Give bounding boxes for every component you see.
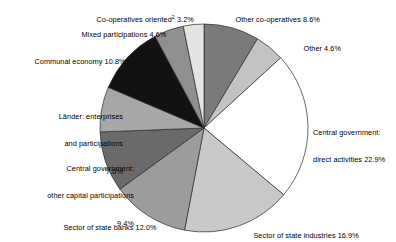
- pie-label-central-gov-direct-line1: Central government:: [313, 128, 385, 137]
- pie-label-central-gov-direct-line2: direct activities 22.9%: [313, 155, 385, 164]
- pie-label-central-gov-other-capital-line2: other capital participations: [5, 191, 134, 200]
- pie-label-other-text: Other 4.6%: [303, 44, 341, 53]
- pie-chart-figure: Co-operatives oriented2 3.2% Mixed parti…: [0, 0, 396, 242]
- pie-label-co-operatives-oriented-value: 3.2%: [175, 15, 194, 24]
- pie-label-laender-line1: Länder: enterprises: [10, 112, 123, 121]
- pie-label-sector-state-banks-text: Sector of state banks 12.0%: [63, 223, 156, 232]
- pie-label-other-co-operatives-text: Other co-operatives 8.6%: [235, 15, 320, 24]
- pie-label-sector-state-industries: Sector of state industries 16.9%: [245, 222, 359, 242]
- pie-label-other: Other 4.6%: [295, 35, 341, 62]
- pie-label-central-gov-direct: Central government: direct activities 22…: [313, 110, 385, 183]
- pie-label-sector-state-industries-text: Sector of state industries 16.9%: [253, 231, 358, 240]
- pie-label-communal-economy-text: Communal economy 10.8%: [34, 57, 125, 66]
- pie-label-communal-economy: Communal economy 10.8%: [26, 48, 126, 75]
- pie-label-mixed-participations: Mixed participations 4.6%: [73, 21, 166, 48]
- pie-label-central-gov-other-capital-line1: Central government:: [5, 164, 134, 173]
- pie-label-mixed-participations-text: Mixed participations 4.6%: [81, 30, 166, 39]
- pie-label-other-co-operatives: Other co-operatives 8.6%: [227, 6, 320, 33]
- pie-label-sector-state-banks: Sector of state banks 12.0%: [55, 214, 157, 241]
